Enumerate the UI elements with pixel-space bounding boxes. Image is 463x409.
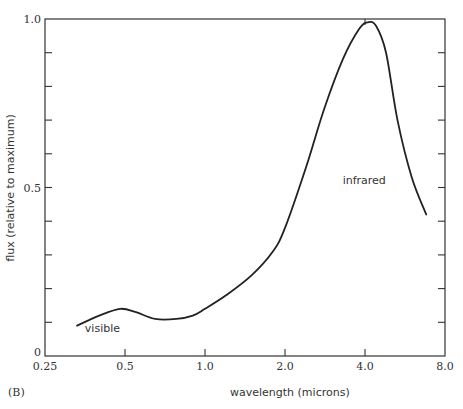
x-tick-label: 0.25 (33, 360, 58, 373)
y-axis-label: flux (relative to maximum) (4, 114, 17, 261)
y-tick-label: 1.0 (24, 13, 42, 26)
x-tick-label: 0.5 (116, 360, 134, 373)
x-axis-label: wavelength (microns) (230, 386, 350, 399)
x-tick-label: 2.0 (276, 360, 294, 373)
y-tick-label: 0 (34, 346, 41, 359)
x-tick-label: 1.0 (196, 360, 214, 373)
annotation-visible: visible (85, 322, 120, 335)
x-tick-label: 4.0 (356, 360, 374, 373)
plot-frame (45, 19, 445, 356)
axis-ticks (45, 19, 445, 356)
annotation-infrared: infrared (343, 174, 386, 187)
chart-canvas (0, 0, 463, 409)
panel-label: (B) (8, 386, 25, 399)
x-tick-label: 8.0 (436, 360, 454, 373)
y-tick-label: 0.5 (24, 181, 42, 194)
